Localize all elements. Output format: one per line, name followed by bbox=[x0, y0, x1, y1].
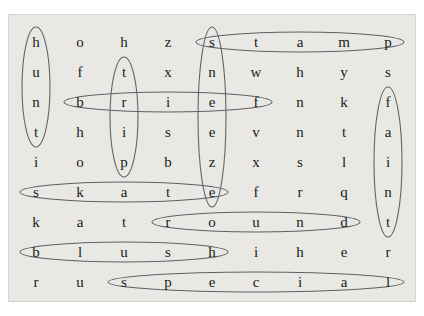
grid-letter: t bbox=[110, 210, 138, 234]
grid-letter: u bbox=[22, 60, 50, 84]
grid-letter: t bbox=[110, 60, 138, 84]
grid-letter: n bbox=[286, 120, 314, 144]
grid-letter: c bbox=[242, 270, 270, 294]
grid-letter: b bbox=[22, 240, 50, 264]
grid-letter: p bbox=[154, 270, 182, 294]
grid-letter: u bbox=[66, 270, 94, 294]
grid-letter: f bbox=[242, 180, 270, 204]
grid-letter: s bbox=[154, 120, 182, 144]
grid-letter: h bbox=[198, 240, 226, 264]
grid-letter: e bbox=[198, 270, 226, 294]
grid-letter: p bbox=[110, 150, 138, 174]
grid-letter: s bbox=[154, 240, 182, 264]
grid-letter: a bbox=[374, 120, 402, 144]
grid-letter: b bbox=[66, 90, 94, 114]
grid-letter: a bbox=[286, 30, 314, 54]
grid-letter: i bbox=[286, 270, 314, 294]
grid-letter: f bbox=[242, 90, 270, 114]
grid-letter: h bbox=[22, 30, 50, 54]
grid-letter: i bbox=[110, 120, 138, 144]
grid-letter: d bbox=[330, 210, 358, 234]
puzzle-board: hohzstampuftxnwhysnbriefnkfthisevntaiopb… bbox=[8, 14, 416, 302]
grid-letter: h bbox=[286, 240, 314, 264]
grid-letter: s bbox=[286, 150, 314, 174]
grid-letter: p bbox=[374, 30, 402, 54]
grid-letter: e bbox=[198, 90, 226, 114]
grid-letter: i bbox=[154, 90, 182, 114]
grid-letter: e bbox=[198, 180, 226, 204]
grid-letter: i bbox=[374, 150, 402, 174]
grid-letter: n bbox=[286, 90, 314, 114]
grid-letter: e bbox=[198, 120, 226, 144]
grid-letter: b bbox=[154, 150, 182, 174]
grid-letter: f bbox=[374, 90, 402, 114]
grid-letter: l bbox=[374, 270, 402, 294]
grid-letter: h bbox=[286, 60, 314, 84]
grid-letter: e bbox=[330, 240, 358, 264]
grid-letter: z bbox=[198, 150, 226, 174]
grid-letter: o bbox=[66, 150, 94, 174]
grid-letter: y bbox=[330, 60, 358, 84]
grid-letter: t bbox=[374, 210, 402, 234]
grid-letter: i bbox=[242, 240, 270, 264]
grid-letter: u bbox=[242, 210, 270, 234]
grid-letter: r bbox=[154, 210, 182, 234]
grid-letter: q bbox=[330, 180, 358, 204]
grid-letter: m bbox=[330, 30, 358, 54]
grid-letter: r bbox=[110, 90, 138, 114]
grid-letter: r bbox=[374, 240, 402, 264]
grid-letter: h bbox=[110, 30, 138, 54]
grid-letter: x bbox=[242, 150, 270, 174]
grid-letter: s bbox=[22, 180, 50, 204]
grid-letter: n bbox=[198, 60, 226, 84]
grid-letter: n bbox=[286, 210, 314, 234]
grid-letter: a bbox=[110, 180, 138, 204]
grid-letter: u bbox=[110, 240, 138, 264]
grid-letter: t bbox=[330, 120, 358, 144]
grid-letter: s bbox=[110, 270, 138, 294]
grid-letter: s bbox=[374, 60, 402, 84]
grid-letter: i bbox=[22, 150, 50, 174]
grid-letter: k bbox=[22, 210, 50, 234]
grid-letter: s bbox=[198, 30, 226, 54]
grid-letter: k bbox=[330, 90, 358, 114]
grid-letter: r bbox=[286, 180, 314, 204]
grid-letter: a bbox=[330, 270, 358, 294]
grid-letter: n bbox=[374, 180, 402, 204]
grid-letter: h bbox=[66, 120, 94, 144]
grid-letter: f bbox=[66, 60, 94, 84]
grid-letter: v bbox=[242, 120, 270, 144]
grid-letter: r bbox=[22, 270, 50, 294]
grid-letter: n bbox=[22, 90, 50, 114]
grid-letter: x bbox=[154, 60, 182, 84]
grid-letter: z bbox=[154, 30, 182, 54]
grid-letter: l bbox=[330, 150, 358, 174]
grid-letter: t bbox=[242, 30, 270, 54]
grid-letter: t bbox=[22, 120, 50, 144]
grid-letter: o bbox=[66, 30, 94, 54]
word-search-puzzle: hohzstampuftxnwhysnbriefnkfthisevntaiopb… bbox=[0, 0, 424, 316]
grid-letter: o bbox=[198, 210, 226, 234]
letter-grid: hohzstampuftxnwhysnbriefnkfthisevntaiopb… bbox=[9, 15, 417, 303]
grid-letter: w bbox=[242, 60, 270, 84]
grid-letter: k bbox=[66, 180, 94, 204]
grid-letter: a bbox=[66, 210, 94, 234]
grid-letter: t bbox=[154, 180, 182, 204]
grid-letter: l bbox=[66, 240, 94, 264]
